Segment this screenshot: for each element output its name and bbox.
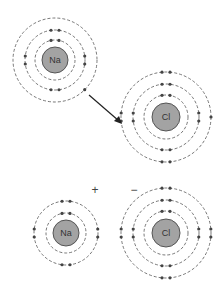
electron	[160, 264, 163, 267]
electron	[168, 187, 171, 190]
electron	[33, 227, 36, 230]
electron	[132, 235, 135, 238]
sodium-ion-charge: +	[91, 183, 98, 197]
electron	[83, 54, 86, 57]
electron	[168, 264, 171, 267]
electron	[160, 71, 163, 74]
electron	[160, 160, 163, 163]
electron	[209, 235, 212, 238]
electron	[209, 115, 212, 118]
sodium-atom-before: Na	[13, 18, 97, 102]
electron	[83, 88, 86, 91]
electron	[60, 263, 63, 266]
electron	[160, 276, 163, 279]
electron	[120, 111, 123, 114]
sodium-ion-after: Na	[33, 200, 100, 267]
electron	[168, 276, 171, 279]
electron	[197, 227, 200, 230]
electron	[83, 62, 86, 65]
element-symbol: Na	[60, 228, 72, 238]
electron	[68, 263, 71, 266]
electron	[168, 83, 171, 86]
electron	[57, 39, 60, 42]
chloride-ion-charge: −	[130, 183, 137, 197]
electron	[120, 227, 123, 230]
electron	[33, 235, 36, 238]
electron	[57, 29, 60, 32]
electron	[120, 235, 123, 238]
ionic-bond-diagram: Na Cl + − Na Cl	[0, 0, 224, 287]
element-symbol: Na	[49, 55, 61, 65]
chloride-ion-after: Cl	[120, 187, 213, 280]
electron	[168, 94, 171, 97]
electron	[96, 235, 99, 238]
element-symbol: Cl	[162, 228, 171, 238]
electron	[197, 235, 200, 238]
electron	[160, 199, 163, 202]
electron	[160, 187, 163, 190]
electron	[68, 212, 71, 215]
electron	[68, 200, 71, 203]
electron	[160, 94, 163, 97]
electron	[168, 160, 171, 163]
electron	[160, 148, 163, 151]
electron	[168, 210, 171, 213]
electron	[160, 210, 163, 213]
electron	[96, 227, 99, 230]
electron	[57, 88, 60, 91]
electron	[24, 62, 27, 65]
electron	[132, 119, 135, 122]
electron	[209, 227, 212, 230]
electron	[49, 39, 52, 42]
electron	[132, 227, 135, 230]
electron-transfer-arrow	[89, 95, 119, 121]
electron	[60, 212, 63, 215]
electron	[168, 71, 171, 74]
electron	[132, 111, 135, 114]
electron	[24, 54, 27, 57]
electron	[60, 200, 63, 203]
electron	[49, 88, 52, 91]
electron	[168, 148, 171, 151]
chlorine-atom-before: Cl	[120, 71, 213, 164]
electron	[197, 111, 200, 114]
electron	[168, 199, 171, 202]
electron	[49, 29, 52, 32]
electron	[197, 119, 200, 122]
element-symbol: Cl	[162, 112, 171, 122]
electron	[160, 83, 163, 86]
